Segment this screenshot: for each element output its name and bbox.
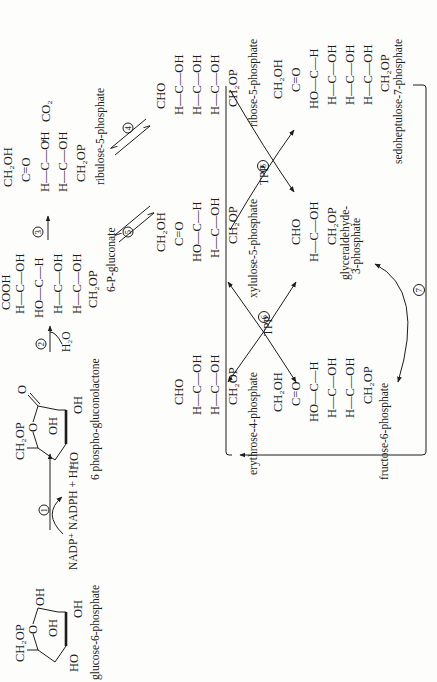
ho-label: HO — [67, 654, 81, 672]
glyceraldehyde-3-phosphate-label-line2: 3-phosphate — [350, 218, 363, 274]
pentose-phosphate-pathway-diagram: CH₂OP O OH HO OH OH glucose-6-phosphate … — [0, 0, 437, 682]
reaction-3: 3 — [33, 216, 48, 240]
co2-label: CO₂ — [39, 100, 53, 122]
row: H—C—OH — [325, 45, 339, 105]
6-p-gluconate-structure: COOH H—C—OH HO—C—H H—C—OH H—C—OH CH₂OP 6… — [0, 227, 118, 318]
row: C=O — [289, 68, 303, 92]
ch2op-label: CH₂OP — [13, 624, 27, 662]
row: H—C—OH — [172, 55, 186, 115]
row: CH₂OH — [271, 372, 285, 412]
row: H—C—OH — [343, 45, 357, 105]
h2o-label: H₂O — [60, 331, 72, 352]
row: CH₂OP — [325, 207, 339, 245]
row: H—C—OH — [325, 358, 339, 418]
ring-oxygen: O — [26, 423, 40, 432]
fructose-6-phosphate-structure: CH₂OH C=O HO—C—H H—C—OH H—C—OH CH₂OP fru… — [271, 358, 391, 480]
row: HO—C—H — [190, 202, 204, 262]
6-p-gluconate-label: 6-P-gluconate — [105, 227, 118, 292]
ribulose-5-phosphate-label: ribulose-5-phosphate — [94, 88, 107, 185]
glyceraldehyde-3-phosphate-structure: CHO H—C—OH CH₂OP glyceraldehyde- 3-phosp… — [289, 202, 363, 280]
row: CHO — [154, 83, 168, 109]
row: H—C—OH — [361, 45, 375, 105]
row: CH₂OP — [378, 54, 392, 92]
row: H—C—OH — [208, 198, 222, 258]
row: CH₂OP — [86, 270, 100, 308]
tpp-label: TPP — [258, 165, 270, 185]
erythrose-4-phosphate-structure: CHO H—C—OH H—C—OH CH₂OP erythrose-4-phos… — [172, 355, 260, 475]
row: CH₂OP — [226, 69, 240, 107]
oh-label: OH — [46, 417, 60, 435]
erythrose-4-phosphate-label: erythrose-4-phosphate — [247, 372, 260, 475]
glucose-6-phosphate-structure: CH₂OP O OH HO OH OH glucose-6-phosphate — [13, 585, 102, 680]
row: H—C—OH — [343, 358, 357, 418]
row: CH₂OP — [361, 366, 375, 404]
row: HO—C—H — [32, 258, 46, 318]
nadp-label: NADP⁺ — [67, 533, 79, 570]
row: H—C—OH — [208, 55, 222, 115]
oh-label: OH — [71, 396, 85, 414]
row: H—C—OH — [13, 254, 27, 314]
step-number: 7 — [414, 288, 424, 293]
ribulose-5-phosphate-structure: CH₂OH C=O H—C—OH H—C—OH CH₂OP ribulose-5… — [1, 88, 107, 192]
row: HO—C—H — [307, 362, 321, 422]
cooh-label: COOH — [0, 275, 13, 310]
oh-label: OH — [46, 619, 60, 637]
row: H—C—OH — [190, 355, 204, 415]
carbonyl-oxygen: O — [15, 385, 29, 394]
xylulose-5-phosphate-structure: CH₂OH C=O HO—C—H H—C—OH CH₂OP xylulose-5… — [154, 198, 260, 298]
tpp-label: TPP — [262, 316, 274, 336]
6-phosphogluconolactone-label: 6 phospho-gluconolactone — [89, 358, 102, 480]
row: C=O — [19, 158, 33, 182]
ring-oxygen: O — [26, 625, 40, 634]
nadph-label: NADPH + H⁺ — [67, 464, 79, 530]
reaction-2: 2 H₂O — [36, 326, 72, 352]
row: H—C—OH — [208, 355, 222, 415]
reaction-5-equilibrium: 5 — [115, 206, 154, 242]
xylulose-5-phosphate-label: xylulose-5-phosphate — [247, 199, 260, 298]
row: CH₂OH — [1, 147, 15, 187]
row: CH₂OP — [74, 144, 88, 182]
reaction-4-equilibrium: 4 — [111, 119, 150, 155]
ribose-5-phosphate-label: ribose-5-phosphate — [247, 39, 260, 127]
reaction-7-transaldolase: 7 — [375, 264, 425, 382]
fructose-6-phosphate-label: fructose-6-phosphate — [378, 383, 391, 480]
ho-label: HO — [67, 452, 81, 470]
row: CHO — [172, 379, 186, 405]
row: CH₂OH — [271, 59, 285, 99]
row: CH₂OP — [226, 367, 240, 405]
row: H—C—OH — [70, 254, 84, 314]
plus-sign: ⁺ — [39, 137, 53, 144]
glucose-6-phosphate-label: glucose-6-phosphate — [89, 585, 102, 680]
row: H—C—OH — [190, 55, 204, 115]
step-number: 5 — [123, 230, 133, 235]
row: H—C—OH — [51, 254, 65, 314]
row: CH₂OH — [154, 212, 168, 252]
oh-label: OH — [71, 600, 85, 618]
sedoheptulose-7-phosphate-label: sedoheptulose-7-phosphate — [392, 39, 405, 164]
ch2op-label: CH₂OP — [13, 422, 27, 460]
row: HO—C—H — [307, 49, 321, 109]
sedoheptulose-7-phosphate-structure: CH₂OH C=O HO—C—H H—C—OH H—C—OH H—C—OH CH… — [271, 39, 405, 164]
step-number: 4 — [123, 126, 133, 131]
oh-label: OH — [33, 588, 47, 606]
6-phosphogluconolactone-structure: CH₂OP O O OH HO OH 6 phospho-gluconolact… — [13, 358, 102, 480]
reaction-1: 1 NADP⁺ NADPH + H⁺ — [39, 454, 79, 570]
row: H—C—OH — [307, 202, 321, 262]
step-number: 2 — [36, 342, 46, 347]
row: H—C—OH — [56, 132, 70, 192]
step-number: 1 — [39, 508, 49, 513]
step-number: 3 — [33, 230, 43, 235]
row: C=O — [289, 382, 303, 406]
row: CHO — [289, 219, 303, 245]
row: C=O — [172, 222, 186, 246]
